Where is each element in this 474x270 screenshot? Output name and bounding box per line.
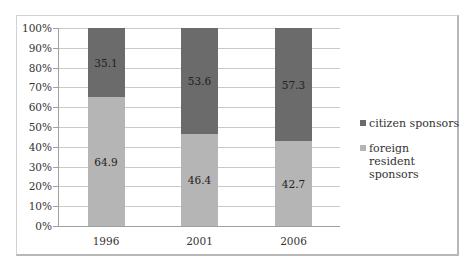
legend: citizen sponsorsforeign resident sponsor… xyxy=(360,117,459,193)
data-label: 53.6 xyxy=(188,75,211,87)
plot-area: 0%10%20%30%40%50%60%70%80%90%100%64.935.… xyxy=(58,28,340,226)
bar-2006: 42.757.3 xyxy=(275,28,312,226)
y-tick-label: 30% xyxy=(12,161,52,173)
x-tick-label: 2001 xyxy=(170,235,230,247)
y-tick-label: 40% xyxy=(12,141,52,153)
bar-2001: 46.453.6 xyxy=(181,28,218,226)
foreign-segment: 64.9 xyxy=(88,97,125,226)
data-label: 57.3 xyxy=(282,79,305,91)
legend-label: citizen sponsors xyxy=(369,117,459,130)
legend-swatch-icon xyxy=(360,120,366,126)
legend-label: foreign resident sponsors xyxy=(369,142,449,181)
y-axis xyxy=(58,28,59,227)
y-tick-label: 60% xyxy=(12,101,52,113)
legend-item: citizen sponsors xyxy=(360,117,459,130)
x-axis xyxy=(58,226,340,227)
x-tick-label: 1996 xyxy=(76,235,136,247)
x-tick-label: 2006 xyxy=(264,235,324,247)
legend-swatch-icon xyxy=(360,145,366,151)
citizen-segment: 53.6 xyxy=(181,28,218,134)
citizen-segment: 57.3 xyxy=(275,28,312,141)
citizen-segment: 35.1 xyxy=(88,28,125,97)
foreign-segment: 46.4 xyxy=(181,134,218,226)
legend-item: foreign resident sponsors xyxy=(360,142,459,181)
y-tick-label: 50% xyxy=(12,121,52,133)
y-tick-label: 10% xyxy=(12,200,52,212)
foreign-segment: 42.7 xyxy=(275,141,312,226)
y-tick-label: 90% xyxy=(12,42,52,54)
y-tick-label: 80% xyxy=(12,62,52,74)
y-tick-label: 20% xyxy=(12,180,52,192)
bar-1996: 64.935.1 xyxy=(88,28,125,226)
y-tick-label: 70% xyxy=(12,81,52,93)
data-label: 42.7 xyxy=(282,178,305,190)
y-tick-label: 100% xyxy=(12,22,52,34)
data-label: 35.1 xyxy=(94,57,117,69)
y-tick-label: 0% xyxy=(12,220,52,232)
data-label: 46.4 xyxy=(188,174,211,186)
data-label: 64.9 xyxy=(94,156,117,168)
